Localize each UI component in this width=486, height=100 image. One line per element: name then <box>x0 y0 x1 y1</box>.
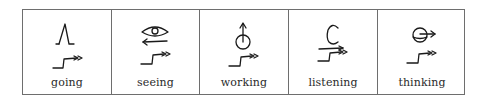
cell-label: thinking <box>378 76 466 89</box>
walking-legs-with-action-indicator-icon <box>47 16 87 74</box>
symbol-cell-thinking: thinking <box>378 10 466 94</box>
ear-with-arrow-and-action-indicator-icon <box>313 16 353 74</box>
circle-with-up-arrow-and-action-indicator-icon <box>224 16 264 74</box>
cell-label: listening <box>289 76 377 89</box>
head-with-arrow-and-action-indicator-icon <box>402 16 442 74</box>
cell-label: going <box>23 76 111 89</box>
symbol-cell-listening: listening <box>289 10 378 94</box>
symbol-table: going seeing workin <box>22 9 465 95</box>
symbol-cell-going: going <box>23 10 112 94</box>
symbol-cell-working: working <box>200 10 289 94</box>
cell-label: seeing <box>112 76 199 89</box>
symbol-cell-seeing: seeing <box>112 10 200 94</box>
cell-label: working <box>200 76 288 89</box>
eye-with-arrow-and-action-indicator-icon <box>136 16 176 74</box>
